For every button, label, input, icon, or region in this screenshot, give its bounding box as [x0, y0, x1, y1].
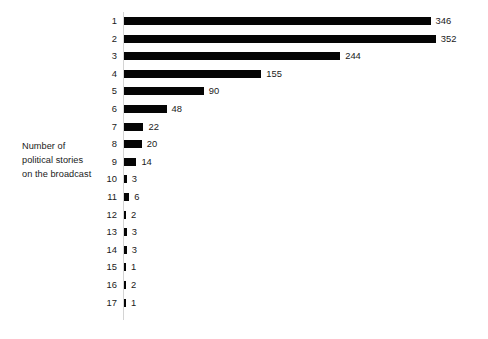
bar-chart: Number of political stories on the broad…: [0, 0, 488, 339]
bar: [124, 70, 261, 78]
bar: [124, 35, 436, 43]
bar: [124, 17, 431, 25]
bar: [124, 263, 126, 271]
category-label: 12: [88, 206, 117, 224]
category-label: 10: [88, 170, 117, 188]
bar: [124, 193, 129, 201]
category-label: 4: [88, 65, 117, 83]
bar-row: 590: [0, 82, 488, 100]
value-label: 346: [436, 12, 452, 30]
value-label: 1: [131, 294, 136, 312]
bar-row: 914: [0, 153, 488, 171]
bar-row: 2352: [0, 30, 488, 48]
value-label: 20: [147, 135, 157, 153]
category-label: 6: [88, 100, 117, 118]
category-label: 8: [88, 135, 117, 153]
bar: [124, 175, 127, 183]
bar-row: 4155: [0, 65, 488, 83]
value-label: 3: [132, 223, 137, 241]
bar: [124, 299, 126, 307]
bar: [124, 140, 142, 148]
category-label: 15: [88, 258, 117, 276]
category-label: 3: [88, 47, 117, 65]
category-label: 2: [88, 30, 117, 48]
bar: [124, 123, 143, 131]
bar-row: 820: [0, 135, 488, 153]
bar-row: 143: [0, 241, 488, 259]
bar: [124, 105, 167, 113]
value-label: 14: [141, 153, 151, 171]
value-label: 48: [172, 100, 182, 118]
value-label: 244: [345, 47, 361, 65]
value-label: 22: [148, 118, 158, 136]
value-label: 3: [132, 170, 137, 188]
value-label: 2: [131, 206, 136, 224]
bar-row: 122: [0, 206, 488, 224]
value-label: 352: [441, 30, 457, 48]
category-label: 11: [88, 188, 117, 206]
value-label: 155: [266, 65, 282, 83]
bar-row: 151: [0, 258, 488, 276]
category-label: 13: [88, 223, 117, 241]
bar: [124, 52, 340, 60]
category-label: 16: [88, 276, 117, 294]
bar: [124, 228, 127, 236]
bar: [124, 87, 204, 95]
plot-area: 1346235232444155590648722820914103116122…: [0, 0, 488, 339]
value-label: 2: [131, 276, 136, 294]
bar-row: 162: [0, 276, 488, 294]
bar: [124, 211, 126, 219]
category-label: 17: [88, 294, 117, 312]
category-label: 9: [88, 153, 117, 171]
category-label: 14: [88, 241, 117, 259]
bar-row: 171: [0, 294, 488, 312]
bar-row: 116: [0, 188, 488, 206]
bar: [124, 246, 127, 254]
bar-row: 133: [0, 223, 488, 241]
bar-row: 1346: [0, 12, 488, 30]
value-label: 90: [209, 82, 219, 100]
value-label: 1: [131, 258, 136, 276]
bar-row: 648: [0, 100, 488, 118]
bar: [124, 158, 136, 166]
bar: [124, 281, 126, 289]
bar-row: 3244: [0, 47, 488, 65]
category-label: 1: [88, 12, 117, 30]
value-label: 3: [132, 241, 137, 259]
category-label: 7: [88, 118, 117, 136]
value-label: 6: [134, 188, 139, 206]
bar-row: 722: [0, 118, 488, 136]
category-label: 5: [88, 82, 117, 100]
bar-row: 103: [0, 170, 488, 188]
